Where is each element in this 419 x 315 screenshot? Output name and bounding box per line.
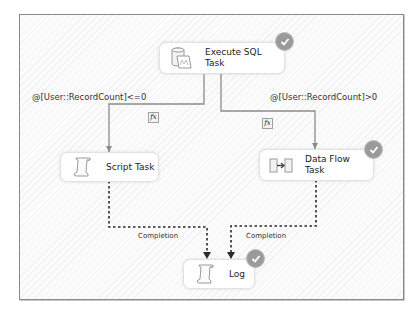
node-data-flow-task[interactable]: Data Flow Task <box>259 149 374 181</box>
success-check-icon <box>364 140 383 159</box>
completion-label-left: Completion <box>138 232 178 240</box>
script-scroll-icon <box>70 155 94 179</box>
node-label: Log <box>229 269 245 280</box>
node-label: Data Flow Task <box>305 154 350 176</box>
edge-sql-to-dataflow <box>221 72 315 149</box>
sql-task-icon <box>169 46 193 70</box>
expression-badge-right[interactable]: fx <box>262 118 273 129</box>
node-label: Execute SQL Task <box>205 47 262 69</box>
success-check-icon <box>246 249 265 268</box>
node-log[interactable]: Log <box>183 259 255 289</box>
edge-dataflow-to-log <box>231 180 316 258</box>
node-execute-sql-task[interactable]: Execute SQL Task <box>159 42 285 74</box>
condition-label-right: @[User::RecordCount]>0 <box>270 92 377 102</box>
data-flow-icon <box>269 153 293 177</box>
completion-label-right: Completion <box>246 232 286 240</box>
node-label: Script Task <box>106 162 154 173</box>
condition-label-left: @[User::RecordCount]<=0 <box>32 92 146 102</box>
edge-script-to-log <box>109 181 207 258</box>
script-scroll-icon <box>193 262 217 286</box>
expression-badge-left[interactable]: fx <box>148 112 159 123</box>
success-check-icon <box>275 32 294 51</box>
node-script-task[interactable]: Script Task <box>60 152 159 182</box>
